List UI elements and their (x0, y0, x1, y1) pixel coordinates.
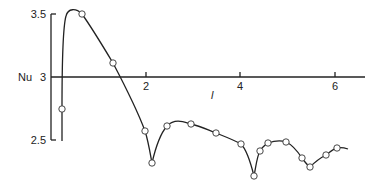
data-point (110, 60, 116, 66)
nusselt-number-chart: 3.5 3 2.5 Nu 2 4 6 l (0, 0, 379, 189)
data-point (59, 106, 65, 112)
data-point (265, 140, 271, 146)
data-point (251, 173, 257, 179)
data-point (164, 123, 170, 129)
y-axis: 3.5 3 2.5 Nu (18, 8, 56, 146)
data-point (323, 152, 329, 158)
data-point (334, 145, 340, 151)
data-point (299, 155, 305, 161)
data-point (257, 148, 263, 154)
data-point (142, 128, 148, 134)
x-tick-label-6: 6 (332, 80, 338, 92)
data-point (79, 11, 85, 17)
x-axis-label: l (211, 89, 214, 101)
data-point (188, 121, 194, 127)
data-point (213, 130, 219, 136)
data-points (59, 11, 340, 179)
y-tick-label-2.5: 2.5 (31, 134, 46, 146)
x-axis: 2 4 6 l (51, 72, 365, 101)
data-point (283, 139, 289, 145)
y-tick-label-3: 3 (40, 71, 46, 83)
nu-curve (62, 10, 348, 176)
x-tick-label-4: 4 (237, 80, 243, 92)
data-point (307, 164, 313, 170)
data-point (149, 160, 155, 166)
y-tick-label-3.5: 3.5 (31, 8, 46, 20)
x-tick-label-2: 2 (143, 80, 149, 92)
y-axis-label: Nu (18, 71, 32, 83)
data-point (238, 141, 244, 147)
